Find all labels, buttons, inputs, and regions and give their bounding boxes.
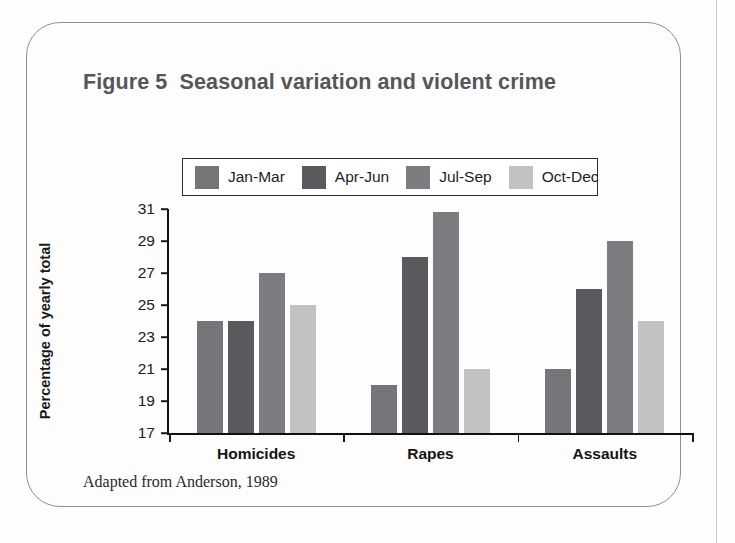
bar-rapes-oct-dec (464, 369, 490, 433)
y-axis-tick-mark (161, 336, 168, 338)
bar-group-rapes (371, 209, 490, 433)
x-axis-category-label: Assaults (518, 445, 692, 463)
legend-label: Jul-Sep (439, 168, 492, 186)
legend-label: Jan-Mar (228, 168, 285, 186)
figure-frame: Figure 5 Seasonal variation and violent … (26, 22, 681, 507)
legend-swatch-icon (509, 166, 533, 189)
bar-homicides-oct-dec (290, 305, 316, 433)
y-axis-tick-mark (161, 368, 168, 370)
legend-swatch-icon (195, 166, 219, 189)
legend-label: Apr-Jun (335, 168, 389, 186)
y-axis-tick-label: 31 (138, 200, 155, 218)
legend-item-jul-sep: Jul-Sep (406, 166, 492, 189)
bar-rapes-jan-mar (371, 385, 397, 433)
chart-legend: Jan-MarApr-JunJul-SepOct-Dec (182, 158, 598, 196)
legend-item-jan-mar: Jan-Mar (195, 166, 285, 189)
y-axis-tick-label: 21 (138, 360, 155, 378)
y-axis-tick-label: 17 (138, 424, 155, 442)
y-axis-tick-mark (161, 240, 168, 242)
x-axis-line (167, 433, 692, 435)
bar-assaults-jan-mar (545, 369, 571, 433)
bar-homicides-jan-mar (197, 321, 223, 433)
bar-group-homicides (197, 209, 316, 433)
figure-page: Figure 5 Seasonal variation and violent … (0, 0, 735, 543)
y-axis-tick-label: 23 (138, 328, 155, 346)
legend-label: Oct-Dec (542, 168, 599, 186)
legend-swatch-icon (302, 166, 326, 189)
bar-homicides-apr-jun (228, 321, 254, 433)
figure-source-caption: Adapted from Anderson, 1989 (83, 473, 278, 491)
y-axis-tick-label: 19 (138, 392, 155, 410)
y-axis-tick-mark (161, 432, 168, 434)
y-axis-tick-label: 29 (138, 232, 155, 250)
bar-assaults-jul-sep (607, 241, 633, 433)
y-axis-tick-mark (161, 400, 168, 402)
y-axis-tick-label: 25 (138, 296, 155, 314)
x-axis-category-label: Homicides (169, 445, 343, 463)
x-axis-category-label: Rapes (343, 445, 517, 463)
y-axis-ticks: 3129272523211917 (127, 209, 155, 433)
legend-swatch-icon (406, 166, 430, 189)
page-edge-line (716, 0, 717, 543)
x-axis-tick-mark (169, 433, 171, 442)
bar-assaults-apr-jun (576, 289, 602, 433)
y-axis-tick-mark (161, 304, 168, 306)
legend-item-oct-dec: Oct-Dec (509, 166, 599, 189)
y-axis-title: Percentage of yearly total (37, 217, 55, 445)
bar-assaults-oct-dec (638, 321, 664, 433)
x-axis-tick-mark (343, 433, 345, 442)
bar-groups: HomicidesRapesAssaults (169, 209, 692, 433)
y-axis-tick-label: 27 (138, 264, 155, 282)
x-axis-tick-mark (518, 433, 520, 442)
bar-group-assaults (545, 209, 664, 433)
bar-homicides-jul-sep (259, 273, 285, 433)
bar-rapes-jul-sep (433, 212, 459, 433)
bar-rapes-apr-jun (402, 257, 428, 433)
y-axis-tick-mark (161, 272, 168, 274)
figure-title: Figure 5 Seasonal variation and violent … (83, 70, 556, 95)
legend-item-apr-jun: Apr-Jun (302, 166, 389, 189)
chart-plot-area: Percentage of yearly total 3129272523211… (83, 209, 693, 449)
x-axis-tick-mark (692, 433, 694, 442)
y-axis-tick-mark (161, 208, 168, 210)
